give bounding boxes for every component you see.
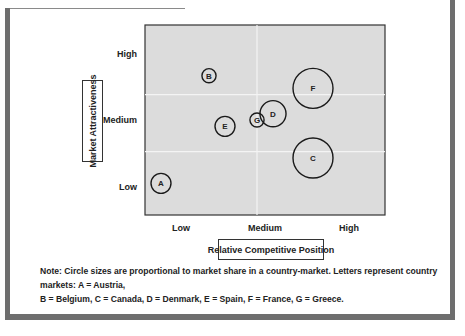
bubble-label: G [254,116,260,125]
bubble-label: B [206,72,212,81]
bubble-label: A [158,179,164,188]
y-tick-label: Medium [103,115,137,125]
bubble-label: F [311,84,316,93]
bubble-label: C [310,154,316,163]
plot-area [145,25,385,215]
y-tick-label: High [117,49,137,59]
x-axis-label: Relative Competitive Position [218,239,324,260]
x-tick-labels: LowMediumHigh [172,223,359,233]
y-tick-labels: HighMediumLow [103,49,138,192]
y-axis-label: Market Attractiveness [82,80,103,162]
note-line-2: B = Belgium, C = Canada, D = Denmark, E … [40,292,450,306]
bubble-label: E [222,122,228,131]
x-tick-label: High [339,223,359,233]
x-tick-label: Medium [248,223,282,233]
note-line-1: Note: Circle sizes are proportional to m… [40,264,450,292]
y-tick-label: Low [119,182,138,192]
bubble-label: D [270,110,276,119]
x-tick-label: Low [172,223,191,233]
y-axis-label-text: Market Attractiveness [88,74,98,167]
chart-note: Note: Circle sizes are proportional to m… [40,264,450,306]
